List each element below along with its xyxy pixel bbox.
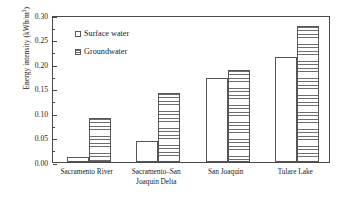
bar-group bbox=[275, 17, 319, 162]
bar-groundwater[interactable] bbox=[297, 26, 319, 162]
x-axis-label: Tulare Lake bbox=[253, 167, 338, 177]
y-axis-tick-mark bbox=[53, 17, 57, 18]
y-axis-title-tail: ) bbox=[22, 7, 31, 10]
y-axis-tick-label: 0.05 bbox=[35, 134, 48, 143]
y-axis-title-superscript: 3 bbox=[21, 9, 27, 12]
plot-area: 0.000.050.100.150.200.250.30 Surface wat… bbox=[52, 16, 330, 163]
legend-item: Groundwater bbox=[75, 47, 129, 56]
y-axis-tick-mark bbox=[53, 139, 57, 140]
y-axis-minor-tick-mark bbox=[53, 78, 55, 79]
y-axis-tick-label: 0.15 bbox=[35, 85, 48, 94]
legend-swatch-groundwater-icon bbox=[75, 49, 81, 55]
y-axis-tick-mark bbox=[53, 115, 57, 116]
bar-group bbox=[206, 17, 250, 162]
y-axis-tick-label: 0.30 bbox=[35, 12, 48, 21]
y-axis-tick-label: 0.20 bbox=[35, 61, 48, 70]
bar-groundwater[interactable] bbox=[158, 93, 180, 162]
chart-legend: Surface water Groundwater bbox=[75, 29, 129, 65]
y-axis-tick-mark bbox=[53, 90, 57, 91]
y-axis-minor-tick-mark bbox=[53, 151, 55, 152]
y-axis-title: Energy intensity (kWh/m3) bbox=[21, 0, 31, 123]
bar-group bbox=[136, 17, 180, 162]
bar-surface-water[interactable] bbox=[67, 157, 89, 162]
y-axis-minor-tick-mark bbox=[53, 102, 55, 103]
legend-swatch-surface-water-icon bbox=[75, 31, 81, 37]
legend-item: Surface water bbox=[75, 29, 129, 38]
y-axis-tick-mark bbox=[53, 66, 57, 67]
y-axis-tick-mark bbox=[53, 41, 57, 42]
bar-surface-water[interactable] bbox=[206, 78, 228, 162]
y-axis-tick-label: 0.25 bbox=[35, 36, 48, 45]
bar-chart-figure: Energy intensity (kWh/m3) 0.000.050.100.… bbox=[0, 0, 338, 197]
legend-label: Surface water bbox=[84, 29, 129, 38]
bar-groundwater[interactable] bbox=[228, 70, 250, 162]
bar-groundwater[interactable] bbox=[89, 118, 111, 162]
legend-label: Groundwater bbox=[84, 47, 127, 56]
y-axis-minor-tick-mark bbox=[53, 53, 55, 54]
bar-surface-water[interactable] bbox=[275, 57, 297, 162]
y-axis-tick-mark bbox=[53, 164, 57, 165]
y-axis-minor-tick-mark bbox=[53, 127, 55, 128]
bar-surface-water[interactable] bbox=[136, 141, 158, 162]
y-axis-tick-label: 0.10 bbox=[35, 110, 48, 119]
y-axis-title-text: Energy intensity (kWh/m bbox=[22, 12, 31, 89]
y-axis-minor-tick-mark bbox=[53, 29, 55, 30]
